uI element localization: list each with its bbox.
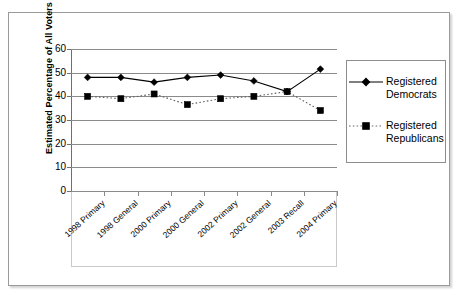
series-line-democrats xyxy=(88,69,321,91)
data-point xyxy=(117,74,124,81)
data-point xyxy=(317,108,323,114)
y-axis-tick-label: 20 xyxy=(55,139,66,149)
data-point xyxy=(184,102,190,108)
legend-line-diamond-icon xyxy=(347,75,385,89)
y-axis-tick-label: 30 xyxy=(55,115,66,125)
legend-label-republicans-line2: Republicans xyxy=(386,132,444,144)
x-tick xyxy=(171,191,172,196)
data-point xyxy=(218,96,224,102)
data-point xyxy=(317,66,324,73)
legend-label-democrats: RegisteredDemocrats xyxy=(385,75,437,100)
data-point xyxy=(184,74,191,81)
y-axis-tick-label: 10 xyxy=(55,162,66,172)
data-point xyxy=(151,91,157,97)
data-point xyxy=(284,89,290,95)
y-axis-tick-label: 40 xyxy=(55,91,66,101)
x-tick xyxy=(337,191,338,196)
y-axis-tick-label: 60 xyxy=(55,44,66,54)
plot-area: 0102030405060 1998 Primary1998 General20… xyxy=(71,49,337,191)
y-tick xyxy=(67,191,71,192)
legend-label-democrats-line2: Democrats xyxy=(386,88,437,100)
x-tick xyxy=(271,191,272,196)
x-tick xyxy=(138,191,139,196)
x-tick xyxy=(237,191,238,196)
legend-label-republicans: RegisteredRepublicans xyxy=(385,119,444,144)
series-layer xyxy=(71,49,337,191)
chart-legend: RegisteredDemocrats RegisteredRepublican… xyxy=(346,60,446,163)
legend-entry-republicans: RegisteredRepublicans xyxy=(347,119,445,144)
x-tick xyxy=(104,191,105,196)
x-tick xyxy=(304,191,305,196)
legend-entry-democrats: RegisteredDemocrats xyxy=(347,75,445,100)
chart-frame: Estimated Percentage of All Voters 01020… xyxy=(8,12,450,286)
legend-label-democrats-line1: Registered xyxy=(386,75,437,87)
y-axis-tick-label: 50 xyxy=(55,68,66,78)
data-point xyxy=(84,74,91,81)
x-tick xyxy=(204,191,205,196)
data-point xyxy=(250,78,257,85)
data-point xyxy=(85,93,91,99)
y-axis-title: Estimated Percentage of All Voters xyxy=(44,0,54,173)
y-axis-tick-label: 0 xyxy=(60,186,66,196)
data-point xyxy=(151,79,158,86)
data-point xyxy=(251,93,257,99)
data-point xyxy=(217,72,224,79)
legend-label-republicans-line1: Registered xyxy=(386,119,437,131)
legend-line-square-icon xyxy=(347,119,385,133)
data-point xyxy=(118,96,124,102)
